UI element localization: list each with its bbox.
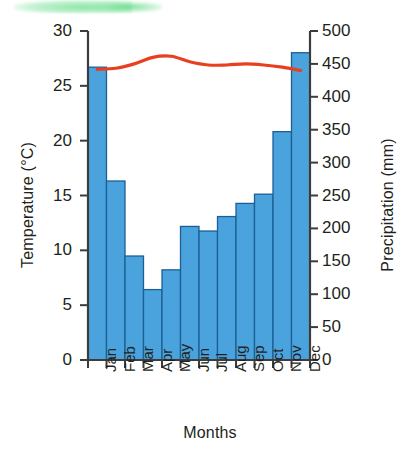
bar-oct xyxy=(255,194,274,360)
month-label-nov: Nov xyxy=(288,345,303,372)
y-axis-left-title: Temperature (°C) xyxy=(19,125,37,285)
y-left-tick-5: 5 xyxy=(32,296,72,313)
y-right-tick-400: 400 xyxy=(322,88,366,105)
y-right-tick-200: 200 xyxy=(322,219,366,236)
y-right-tick-300: 300 xyxy=(322,154,366,171)
bar-jan xyxy=(88,67,107,360)
bar-feb xyxy=(107,181,126,360)
bar-dec xyxy=(292,53,311,360)
month-label-sep: Sep xyxy=(251,345,266,372)
y-axis-right-ticks xyxy=(310,31,318,360)
bar-nov xyxy=(273,132,292,360)
bar-sep xyxy=(236,203,255,360)
y-left-tick-20: 20 xyxy=(32,132,72,149)
month-label-may: May xyxy=(177,344,192,372)
month-label-mar: Mar xyxy=(140,346,155,372)
bar-mar xyxy=(125,256,144,360)
y-right-tick-350: 350 xyxy=(322,121,366,138)
bar-jun xyxy=(181,226,200,360)
y-right-tick-50: 50 xyxy=(322,318,366,335)
x-axis-title: Months xyxy=(0,424,420,442)
y-right-tick-100: 100 xyxy=(322,285,366,302)
month-label-dec: Dec xyxy=(307,345,322,372)
month-label-feb: Feb xyxy=(122,346,137,372)
y-axis-left-ticks xyxy=(80,31,88,360)
y-left-tick-10: 10 xyxy=(32,241,72,258)
y-left-tick-0: 0 xyxy=(32,351,72,368)
y-right-tick-150: 150 xyxy=(322,252,366,269)
y-right-tick-0: 0 xyxy=(322,351,366,368)
month-label-apr: Apr xyxy=(159,349,174,372)
month-label-jul: Jul xyxy=(214,353,229,372)
month-label-aug: Aug xyxy=(233,345,248,372)
y-right-tick-500: 500 xyxy=(322,22,366,39)
bar-aug xyxy=(218,217,237,360)
month-label-jun: Jun xyxy=(196,348,211,372)
y-right-tick-250: 250 xyxy=(322,187,366,204)
y-left-tick-15: 15 xyxy=(32,187,72,204)
y-left-tick-30: 30 xyxy=(32,22,72,39)
y-axis-right-title: Precipitation (mm) xyxy=(379,125,397,285)
month-label-jan: Jan xyxy=(103,348,118,372)
y-left-tick-25: 25 xyxy=(32,77,72,94)
month-label-oct: Oct xyxy=(270,349,285,372)
bar-jul xyxy=(199,231,218,360)
y-right-tick-450: 450 xyxy=(322,55,366,72)
